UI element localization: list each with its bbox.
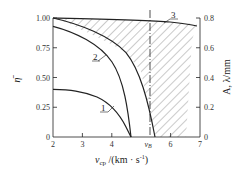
y-left-tick-050: 0.50	[36, 74, 50, 83]
curve-2-label: 2	[93, 52, 98, 62]
y-right-axis-title: A, λ/mm	[221, 59, 232, 95]
y-left-tick-075: 0.75	[36, 44, 50, 53]
x-tick-7: 7	[198, 140, 202, 149]
hatched-region	[53, 18, 197, 137]
curve-3-label: 3	[171, 10, 176, 20]
x-tick-2: 2	[51, 140, 55, 149]
chart: 1 2 3 0 0.25 0.50 0.75 1.00 0 0.2 0.4 0.…	[0, 0, 246, 171]
x-axis-title: vcp /(km · s-1)	[95, 154, 148, 167]
curve-1	[53, 89, 131, 137]
y-left-tick-0: 0	[46, 133, 50, 142]
x-tick-vB: vB	[144, 140, 152, 149]
y-right-tick-04: 0.4	[204, 74, 214, 83]
y-left-tick-100: 1.00	[36, 14, 50, 23]
y-left-axis-title: η̄	[11, 75, 22, 83]
y-left-tick-025: 0.25	[36, 103, 50, 112]
left-ticks	[53, 18, 57, 107]
y-right-tick-02: 0.2	[204, 103, 214, 112]
right-ticks	[196, 18, 200, 107]
x-tick-3: 3	[80, 140, 84, 149]
chart-svg: 1 2 3 0 0.25 0.50 0.75 1.00 0 0.2 0.4 0.…	[0, 0, 246, 171]
y-right-tick-08: 0.8	[204, 14, 214, 23]
y-right-tick-06: 0.6	[204, 44, 214, 53]
y-right-tick-0: 0	[204, 133, 208, 142]
x-tick-4: 4	[110, 140, 114, 149]
x-tick-6: 6	[169, 140, 173, 149]
curve-2-leader	[98, 55, 106, 61]
curve-1-label: 1	[101, 103, 106, 113]
